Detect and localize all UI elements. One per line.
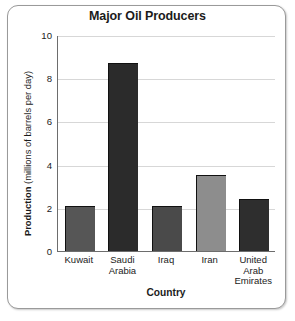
x-tick-label: SaudiArabia: [101, 255, 145, 276]
bar-edge: [152, 206, 182, 251]
bar: [65, 206, 95, 251]
x-tick-label: Iraq: [144, 255, 188, 266]
bar-edge: [108, 63, 138, 251]
chart-title: Major Oil Producers: [0, 9, 295, 23]
y-tick-label: 8: [26, 73, 52, 84]
y-tick-label: 0: [26, 246, 52, 257]
bars-layer: [58, 36, 275, 251]
bar: [196, 175, 226, 251]
y-tick-label: 6: [26, 116, 52, 127]
x-tick-label: Iran: [188, 255, 232, 266]
bar: [108, 63, 138, 251]
bar-edge: [196, 175, 226, 251]
x-tick-label: Kuwait: [57, 255, 101, 266]
x-tick-label: UnitedArabEmirates: [231, 255, 275, 287]
bar-edge: [239, 199, 269, 251]
y-tick-label: 10: [26, 30, 52, 41]
y-tick-label: 4: [26, 160, 52, 171]
bar: [239, 199, 269, 251]
bar-edge: [65, 206, 95, 251]
y-tick-label: 2: [26, 203, 52, 214]
x-axis-title: Country: [57, 287, 275, 298]
plot-area: [57, 36, 275, 252]
bar: [152, 206, 182, 251]
